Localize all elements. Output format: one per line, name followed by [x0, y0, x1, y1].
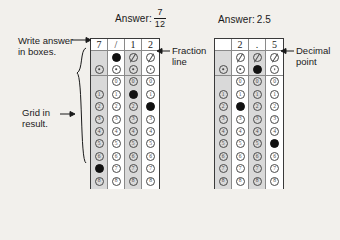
digit-bubble-7[interactable]: 7 [146, 164, 155, 173]
digit-bubble-2[interactable]: 2 [253, 102, 262, 111]
digit-bubble-cell[interactable]: 3 [266, 113, 283, 125]
digit-bubble-6[interactable]: 6 [112, 152, 121, 161]
written-answer-box[interactable]: 2 [232, 39, 248, 51]
decimal-point-bubble[interactable] [219, 65, 228, 74]
digit-bubble-cell[interactable]: 3 [232, 113, 248, 125]
digit-bubble-6[interactable]: 6 [236, 152, 245, 161]
decimal-point-bubble[interactable] [236, 65, 245, 74]
digit-bubble-cell[interactable]: 5 [125, 138, 141, 150]
digit-bubble-4[interactable]: 4 [236, 127, 245, 136]
digit-bubble-8[interactable]: 8 [129, 177, 138, 186]
answer-grid-decimal[interactable]: 12345678920123456789.0123456789501234567… [214, 38, 284, 189]
digit-bubble-7[interactable]: 7 [95, 164, 104, 173]
digit-bubble-cell[interactable]: 8 [125, 175, 141, 187]
digit-bubble-7[interactable]: 7 [129, 164, 138, 173]
digit-bubble-5[interactable]: 5 [95, 139, 104, 148]
digit-bubble-cell[interactable]: 4 [232, 125, 248, 137]
digit-bubble-7[interactable]: 7 [236, 164, 245, 173]
digit-bubble-cell[interactable]: 2 [91, 101, 107, 113]
digit-bubble-cell[interactable]: 2 [142, 101, 159, 113]
digit-bubble-3[interactable]: 3 [219, 115, 228, 124]
digit-bubble-7[interactable]: 7 [270, 164, 279, 173]
digit-bubble-8[interactable]: 8 [253, 177, 262, 186]
digit-bubble-cell[interactable]: 7 [108, 163, 124, 175]
digit-bubble-cell[interactable]: 8 [215, 175, 231, 187]
digit-bubble-cell[interactable]: 4 [108, 125, 124, 137]
digit-bubble-cell[interactable]: 7 [142, 163, 159, 175]
digit-bubble-cell[interactable]: 8 [249, 175, 265, 187]
digit-bubble-cell[interactable]: 9 [91, 187, 107, 189]
fraction-line-bubble-cell[interactable] [142, 51, 159, 63]
digit-bubble-4[interactable]: 4 [129, 127, 138, 136]
digit-bubble-cell[interactable]: 0 [249, 76, 265, 88]
fraction-line-bubble-cell[interactable] [249, 51, 265, 63]
fraction-line-bubble[interactable] [129, 53, 138, 62]
digit-bubble-2[interactable]: 2 [236, 102, 245, 111]
decimal-point-bubble-cell[interactable] [108, 63, 124, 75]
written-answer-box[interactable] [215, 39, 231, 51]
digit-bubble-4[interactable]: 4 [253, 127, 262, 136]
digit-bubble-cell[interactable]: 7 [91, 163, 107, 175]
digit-bubble-cell[interactable]: 0 [266, 76, 283, 88]
digit-bubble-cell[interactable]: 3 [108, 113, 124, 125]
fraction-line-bubble-cell[interactable] [108, 51, 124, 63]
fraction-line-bubble[interactable] [270, 53, 279, 62]
digit-bubble-1[interactable]: 1 [236, 90, 245, 99]
digit-bubble-cell[interactable]: 6 [142, 150, 159, 162]
fraction-line-bubble[interactable] [146, 53, 155, 62]
decimal-point-bubble-cell[interactable] [232, 63, 248, 75]
digit-bubble-cell[interactable]: 8 [142, 175, 159, 187]
digit-bubble-2[interactable]: 2 [112, 102, 121, 111]
grid-column[interactable]: .0123456789 [249, 39, 266, 189]
digit-bubble-cell[interactable]: 8 [91, 175, 107, 187]
digit-bubble-5[interactable]: 5 [129, 139, 138, 148]
digit-bubble-cell[interactable]: 5 [232, 138, 248, 150]
digit-bubble-2[interactable]: 2 [270, 102, 279, 111]
digit-bubble-4[interactable]: 4 [270, 127, 279, 136]
grid-column[interactable]: 123456789 [215, 39, 232, 189]
digit-bubble-6[interactable]: 6 [270, 152, 279, 161]
digit-bubble-1[interactable]: 1 [129, 90, 138, 99]
digit-bubble-cell[interactable]: 3 [142, 113, 159, 125]
digit-bubble-cell[interactable]: 1 [215, 88, 231, 100]
digit-bubble-0[interactable]: 0 [146, 77, 155, 86]
digit-bubble-5[interactable]: 5 [146, 139, 155, 148]
digit-bubble-cell[interactable]: 7 [125, 163, 141, 175]
digit-bubble-0[interactable]: 0 [129, 77, 138, 86]
digit-bubble-cell[interactable]: 1 [266, 88, 283, 100]
digit-bubble-3[interactable]: 3 [270, 115, 279, 124]
digit-bubble-6[interactable]: 6 [95, 152, 104, 161]
digit-bubble-cell[interactable]: 4 [215, 125, 231, 137]
written-answer-box[interactable]: / [108, 39, 124, 51]
digit-bubble-cell[interactable]: 5 [142, 138, 159, 150]
digit-bubble-2[interactable]: 2 [146, 102, 155, 111]
digit-bubble-cell[interactable]: 8 [232, 175, 248, 187]
digit-bubble-0[interactable]: 0 [270, 77, 279, 86]
digit-bubble-7[interactable]: 7 [219, 164, 228, 173]
digit-bubble-cell[interactable]: 4 [125, 125, 141, 137]
digit-bubble-cell[interactable]: 7 [249, 163, 265, 175]
digit-bubble-cell[interactable]: 0 [125, 76, 141, 88]
decimal-point-bubble-cell[interactable] [142, 63, 159, 75]
digit-bubble-cell[interactable]: 0 [232, 76, 248, 88]
written-answer-box[interactable]: 5 [266, 39, 283, 51]
digit-bubble-cell[interactable]: 8 [266, 175, 283, 187]
digit-bubble-cell[interactable]: 3 [91, 113, 107, 125]
digit-bubble-cell[interactable]: 1 [108, 88, 124, 100]
digit-bubble-cell[interactable]: 5 [108, 138, 124, 150]
digit-bubble-8[interactable]: 8 [219, 177, 228, 186]
decimal-point-bubble[interactable] [129, 65, 138, 74]
grid-column[interactable]: 20123456789 [142, 39, 159, 189]
digit-bubble-cell[interactable]: 5 [266, 138, 283, 150]
digit-bubble-7[interactable]: 7 [253, 164, 262, 173]
decimal-point-bubble-cell[interactable] [266, 63, 283, 75]
grid-column[interactable]: 20123456789 [232, 39, 249, 189]
digit-bubble-0[interactable]: 0 [112, 77, 121, 86]
decimal-point-bubble[interactable] [253, 65, 262, 74]
digit-bubble-4[interactable]: 4 [146, 127, 155, 136]
digit-bubble-8[interactable]: 8 [236, 177, 245, 186]
decimal-point-bubble-cell[interactable] [215, 63, 231, 75]
digit-bubble-cell[interactable]: 7 [266, 163, 283, 175]
digit-bubble-cell[interactable]: 1 [91, 88, 107, 100]
digit-bubble-2[interactable]: 2 [95, 102, 104, 111]
